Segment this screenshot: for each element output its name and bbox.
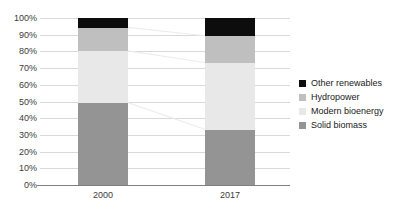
- legend-swatch-icon: [299, 94, 306, 101]
- legend-item-hydropower[interactable]: Hydropower: [299, 90, 405, 104]
- stacked-bar-chart: 100%90%80%70%60%50%40%30%20%10%0% 200020…: [0, 0, 407, 216]
- x-axis-label-2017: 2017: [190, 190, 270, 200]
- bar-segment-solid-biomass[interactable]: [78, 103, 128, 185]
- bar-2017[interactable]: [205, 18, 255, 185]
- bar-segment-hydropower[interactable]: [205, 36, 255, 63]
- y-axis-label: 70%: [1, 64, 37, 73]
- plot-area: [40, 18, 290, 185]
- y-axis-label: 80%: [1, 47, 37, 56]
- y-axis-label: 100%: [1, 14, 37, 23]
- bar-segment-modern-bioenergy[interactable]: [78, 51, 128, 103]
- legend-swatch-icon: [299, 108, 306, 115]
- y-axis-label: 90%: [1, 31, 37, 40]
- legend-item-modern-bioenergy[interactable]: Modern bioenergy: [299, 104, 405, 118]
- y-axis-label: 10%: [1, 164, 37, 173]
- legend: Other renewablesHydropowerModern bioener…: [299, 76, 405, 132]
- y-axis-label: 50%: [1, 98, 37, 107]
- bar-segment-solid-biomass[interactable]: [205, 130, 255, 185]
- bar-2000[interactable]: [78, 18, 128, 185]
- x-axis-label-2000: 2000: [63, 190, 143, 200]
- bar-segment-other-renewables[interactable]: [205, 18, 255, 36]
- y-axis-label: 20%: [1, 148, 37, 157]
- connector-line: [128, 102, 205, 130]
- legend-swatch-icon: [299, 80, 306, 87]
- y-axis-label: 60%: [1, 81, 37, 90]
- y-axis-label: 40%: [1, 114, 37, 123]
- bar-segment-modern-bioenergy[interactable]: [205, 63, 255, 130]
- bar-segment-hydropower[interactable]: [78, 28, 128, 51]
- legend-label: Hydropower: [311, 92, 360, 102]
- legend-label: Modern bioenergy: [311, 106, 384, 116]
- y-axis: 100%90%80%70%60%50%40%30%20%10%0%: [0, 18, 37, 185]
- legend-item-other-renewables[interactable]: Other renewables: [299, 76, 405, 90]
- axis-baseline: [37, 185, 290, 186]
- bar-segment-other-renewables[interactable]: [78, 18, 128, 28]
- legend-label: Other renewables: [311, 78, 382, 88]
- y-axis-label: 30%: [1, 131, 37, 140]
- legend-item-solid-biomass[interactable]: Solid biomass: [299, 118, 405, 132]
- legend-swatch-icon: [299, 122, 306, 129]
- y-axis-label: 0%: [1, 181, 37, 190]
- legend-label: Solid biomass: [311, 120, 367, 130]
